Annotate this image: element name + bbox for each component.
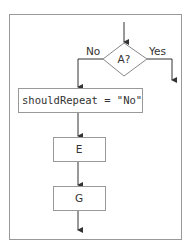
- no-label: No: [86, 45, 100, 57]
- e-box-label: E: [76, 143, 83, 155]
- yes-label: Yes: [148, 45, 166, 57]
- g-box-label: G: [75, 192, 83, 204]
- assign-box-label: shouldRepeat = "No": [22, 94, 142, 106]
- flowchart: A? No Yes shouldRepeat = "No" E G: [0, 0, 194, 250]
- no-branch-arrow: [78, 59, 103, 87]
- yes-branch-arrow: [147, 59, 172, 80]
- decision-label: A?: [118, 53, 131, 65]
